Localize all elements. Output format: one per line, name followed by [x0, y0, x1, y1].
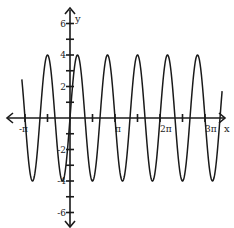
sine-graph: -ππ2π3π 642-2-4-6 x y	[0, 0, 234, 228]
y-axis-label: y	[74, 13, 81, 24]
x-tick-labels: -ππ2π3π	[19, 124, 217, 134]
y-tick-label: 4	[60, 50, 66, 60]
x-axis-label: x	[224, 123, 230, 134]
y-tick-label: -6	[57, 208, 66, 218]
y-tick-label: 2	[60, 82, 66, 92]
y-tick-label: 6	[60, 19, 66, 29]
x-tick-label: 2π	[160, 124, 172, 134]
